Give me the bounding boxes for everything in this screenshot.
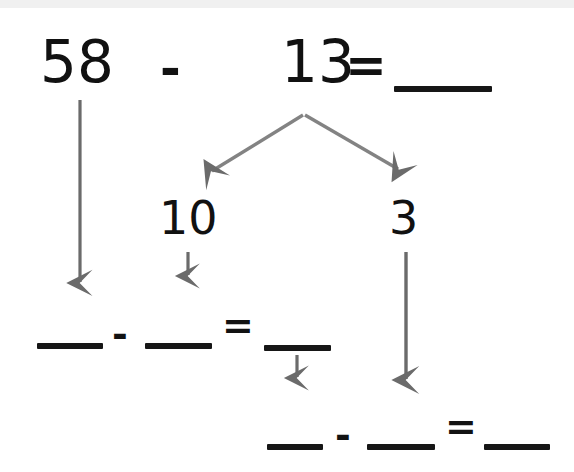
arrow-split-left bbox=[212, 115, 303, 171]
arrow-split-right bbox=[305, 115, 398, 169]
arrow-layer bbox=[0, 0, 574, 472]
worksheet-canvas: 58 - 13 = 10 3 - = - = bbox=[0, 0, 574, 472]
